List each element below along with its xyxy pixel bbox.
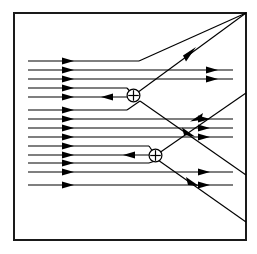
field-line-diagram — [0, 0, 257, 254]
figure-root — [0, 0, 257, 254]
lower-positive-charge — [149, 149, 162, 162]
upper-positive-charge — [127, 89, 140, 102]
diagram-frame — [14, 13, 246, 240]
